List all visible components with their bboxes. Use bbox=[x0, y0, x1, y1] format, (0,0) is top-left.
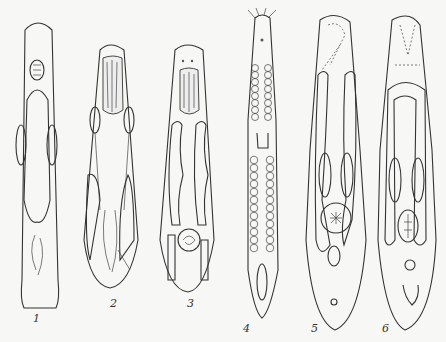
specimen-4-drawing bbox=[248, 8, 278, 318]
specimen-drawings bbox=[0, 0, 446, 342]
specimen-label-5: 5 bbox=[311, 322, 318, 335]
specimen-label-6: 6 bbox=[382, 322, 389, 335]
specimen-5-drawing bbox=[306, 15, 366, 330]
specimen-1-drawing bbox=[16, 23, 59, 308]
specimen-6-drawing bbox=[378, 16, 436, 330]
specimen-label-4: 4 bbox=[243, 322, 250, 335]
figure: 1 2 3 4 5 6 bbox=[0, 0, 446, 342]
specimen-label-1: 1 bbox=[33, 312, 40, 325]
specimen-3-drawing bbox=[160, 45, 214, 292]
specimen-label-2: 2 bbox=[110, 297, 117, 310]
specimen-2-drawing bbox=[84, 45, 138, 288]
specimen-label-3: 3 bbox=[187, 297, 194, 310]
